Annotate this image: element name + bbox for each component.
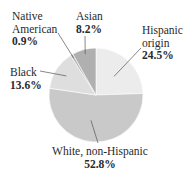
pie-slices (49, 48, 143, 142)
label-native-american-line1: Native (12, 10, 57, 23)
label-white-pct: 52.8% (52, 158, 148, 171)
label-white-name: White, non-Hispanic (52, 145, 148, 158)
label-black-pct: 13.6% (10, 79, 42, 92)
label-black: Black 13.6% (10, 66, 42, 91)
label-hispanic-line2: origin (142, 37, 183, 50)
label-hispanic: Hispanic origin 24.5% (142, 24, 183, 62)
pie-slice-white-non-hispanic (49, 88, 143, 142)
label-hispanic-pct: 24.5% (142, 49, 183, 62)
label-native-american-line2: American (12, 23, 57, 36)
pie-slice-hispanic-origin (96, 48, 143, 95)
label-asian-name: Asian (76, 10, 103, 23)
label-hispanic-line1: Hispanic (142, 24, 183, 37)
label-white: White, non-Hispanic 52.8% (52, 145, 148, 170)
leader-native-american (58, 33, 74, 58)
label-black-name: Black (10, 66, 42, 79)
label-asian-pct: 8.2% (76, 23, 103, 36)
label-asian: Asian 8.2% (76, 10, 103, 35)
label-native-american: Native American 0.9% (12, 10, 57, 48)
label-native-american-pct: 0.9% (12, 35, 57, 48)
